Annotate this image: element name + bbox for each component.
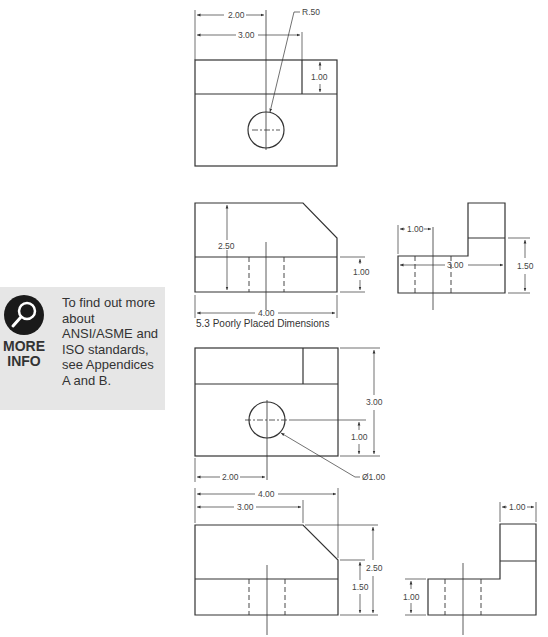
dim-label: 2.50 [366, 563, 383, 573]
good-side-view [405, 502, 536, 635]
dim-label: 3.00 [447, 260, 464, 270]
dim-label: 4.00 [258, 308, 275, 318]
good-top-view [195, 348, 380, 482]
dim-label: 1.00 [509, 502, 526, 512]
dim-label: 1.50 [517, 261, 534, 271]
dim-label: R.50 [302, 7, 320, 17]
good-front-view [195, 488, 378, 635]
dim-label: 1.00 [353, 267, 370, 277]
dim-label: 1.50 [352, 582, 369, 592]
dim-label: 2.50 [218, 241, 235, 251]
figure-caption: 5.3 Poorly Placed Dimensions [196, 318, 329, 329]
label-line: MORE [0, 339, 48, 354]
dim-label: 1.00 [351, 432, 368, 442]
more-info-box: MORE INFO To find out more about ANSI/AS… [0, 287, 165, 410]
magnifier-icon [4, 295, 44, 335]
dim-label: 3.00 [238, 30, 255, 40]
dim-label: 4.00 [258, 489, 275, 499]
dim-label: 3.00 [366, 397, 383, 407]
dim-label: 1.00 [407, 224, 424, 234]
info-text: To find out more about ANSI/ASME and ISO… [62, 295, 162, 388]
dim-label: 3.00 [237, 502, 254, 512]
dim-label: 2.00 [222, 472, 239, 482]
label-line: INFO [0, 354, 48, 369]
dim-label: Ø1.00 [362, 472, 385, 482]
poor-side-view [398, 203, 530, 310]
dim-label: 1.00 [403, 592, 420, 602]
dim-label: 2.00 [228, 10, 245, 20]
poor-top-view [195, 10, 337, 166]
more-info-label: MORE INFO [0, 339, 48, 369]
dim-label: 1.00 [311, 72, 328, 82]
poor-front-view [195, 203, 365, 318]
